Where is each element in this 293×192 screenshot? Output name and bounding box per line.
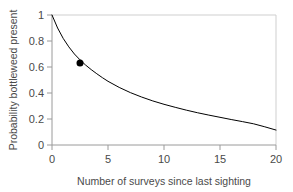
y-tick-label-0.6: 0.6	[29, 61, 44, 73]
data-point-marker	[77, 60, 84, 67]
chart-canvas: 1 0.8 0.6 0.4 0.2 0 0 5 10 15 20 Number …	[0, 0, 293, 192]
y-tick-label-0.4: 0.4	[29, 87, 44, 99]
x-tick-label-15: 15	[214, 153, 226, 165]
y-axis-ticks	[47, 15, 52, 145]
x-tick-label-10: 10	[158, 153, 170, 165]
plot-area-background	[52, 15, 276, 145]
y-axis-title: Probability bottleweed present	[7, 10, 19, 151]
y-tick-label-0: 0	[38, 139, 44, 151]
x-tick-label-5: 5	[105, 153, 111, 165]
y-tick-label-0.2: 0.2	[29, 113, 44, 125]
y-tick-label-1: 1	[38, 9, 44, 21]
y-tick-label-0.8: 0.8	[29, 35, 44, 47]
chart-figure: 1 0.8 0.6 0.4 0.2 0 0 5 10 15 20 Number …	[0, 0, 293, 192]
highlighted-data-point	[77, 60, 84, 67]
x-axis-ticks	[52, 145, 276, 150]
x-axis-title: Number of surveys since last sighting	[77, 175, 251, 187]
x-tick-label-0: 0	[49, 153, 55, 165]
x-tick-label-20: 20	[270, 153, 282, 165]
